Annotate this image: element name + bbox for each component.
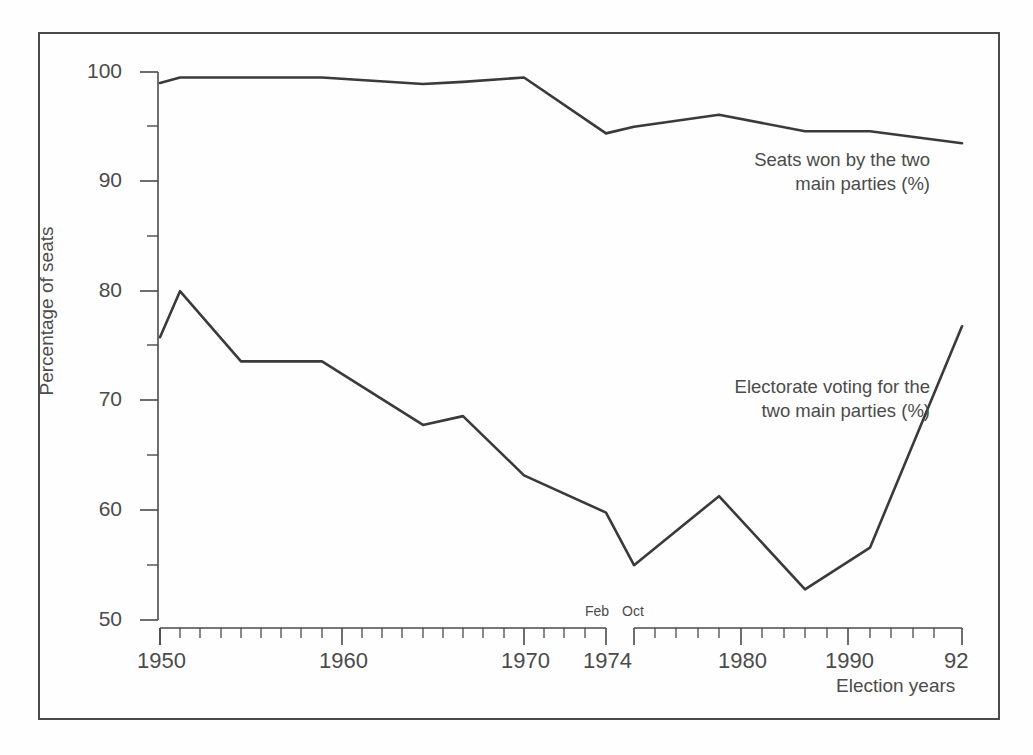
x-axis-title: Election years (836, 675, 955, 697)
y-tick-label-60: 60 (64, 497, 122, 521)
y-tick-label-50: 50 (64, 607, 122, 631)
y-tick-label-80: 80 (64, 278, 122, 302)
x-sublabel-oct: Oct (622, 603, 644, 619)
y-tick-label-90: 90 (64, 168, 122, 192)
x-tick-label-1970: 1970 (501, 648, 550, 674)
x-tick-label-1980: 1980 (718, 648, 767, 674)
y-axis (140, 72, 158, 620)
x-tick-label-1990: 1990 (825, 648, 874, 674)
y-axis-title: Percentage of seats (36, 201, 58, 421)
x-tick-label-1974: 1974 (583, 648, 632, 674)
y-tick-label-100: 100 (64, 59, 122, 83)
series-seats-line (160, 77, 962, 143)
x-axis-right-segment (634, 628, 962, 645)
annotation-seats-series: Seats won by the two main parties (%) (668, 148, 930, 197)
x-tick-label-1960: 1960 (319, 648, 368, 674)
series-electorate-line (160, 291, 962, 589)
y-tick-label-70: 70 (64, 387, 122, 411)
x-sublabel-feb: Feb (585, 603, 609, 619)
x-tick-label-1950: 1950 (137, 648, 186, 674)
annotation-electorate-series: Electorate voting for the two main parti… (650, 375, 930, 424)
chart-page: Percentage of seats 100 90 80 70 60 50 1… (0, 0, 1033, 755)
x-tick-label-92: 92 (944, 648, 968, 674)
x-axis-left-segment (160, 628, 606, 645)
